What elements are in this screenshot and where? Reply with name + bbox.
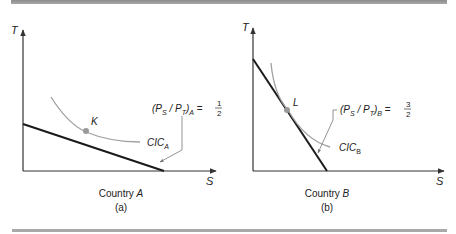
panel-a: T S K CICA (PS / PT)A = 1 2 Country A (a… xyxy=(11,24,222,213)
panel-b: T S L CICB (PS / PT)B = 3 2 Country B (b… xyxy=(242,21,444,213)
y-axis-label-b: T xyxy=(242,21,250,33)
price-ratio-b-numerator: 3 xyxy=(406,100,411,109)
point-l-label: L xyxy=(293,97,299,108)
x-axis-label-a: S xyxy=(206,175,214,187)
point-l xyxy=(284,107,290,113)
budget-line-b xyxy=(253,59,327,171)
country-a-title: Country A xyxy=(99,188,144,199)
caption-a: (a) xyxy=(115,202,127,213)
price-ratio-b-denominator: 2 xyxy=(406,110,411,119)
cic-b-label: CICB xyxy=(339,142,361,155)
caption-b: (b) xyxy=(321,202,333,213)
diagram-canvas: T S K CICA (PS / PT)A = 1 2 Country A (a… xyxy=(0,0,456,234)
y-axis-label-a: T xyxy=(11,24,19,36)
cic-a-label: CICA xyxy=(147,137,169,150)
indifference-curve-b xyxy=(271,63,330,147)
point-k-label: K xyxy=(91,116,99,127)
point-k xyxy=(83,128,89,134)
price-ratio-a-numerator: 1 xyxy=(217,99,222,108)
country-b-title: Country B xyxy=(305,188,350,199)
price-ratio-b: (PS / PT)B = xyxy=(340,104,391,117)
price-ratio-a: (PS / PT)A = xyxy=(152,103,203,116)
price-ratio-a-denominator: 2 xyxy=(217,109,222,118)
x-axis-label-b: S xyxy=(436,175,444,187)
budget-line-a xyxy=(23,124,164,171)
